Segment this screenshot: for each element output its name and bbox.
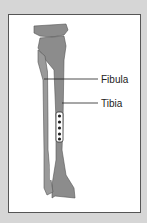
- fibula-label: Fibula: [101, 74, 128, 85]
- tibia-label: Tibia: [101, 98, 122, 109]
- leg-bones-illustration: [0, 0, 147, 223]
- knee-bone: [34, 24, 68, 37]
